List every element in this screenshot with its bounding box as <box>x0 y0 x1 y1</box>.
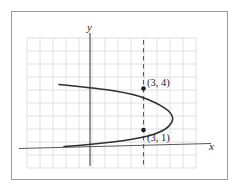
point-label-upper: (3, 4) <box>147 77 170 89</box>
point-label-lower: (3, 1) <box>147 132 170 144</box>
x-axis <box>19 144 211 149</box>
figure-root: (3, 4) (3, 1) y x <box>0 0 241 191</box>
point-marker-lower <box>141 128 146 133</box>
y-axis-label: y <box>86 21 92 33</box>
plot-canvas: (3, 4) (3, 1) y x <box>0 0 241 191</box>
grid-lines <box>27 38 197 168</box>
point-marker-upper <box>141 86 146 91</box>
x-axis-label: x <box>208 140 214 152</box>
